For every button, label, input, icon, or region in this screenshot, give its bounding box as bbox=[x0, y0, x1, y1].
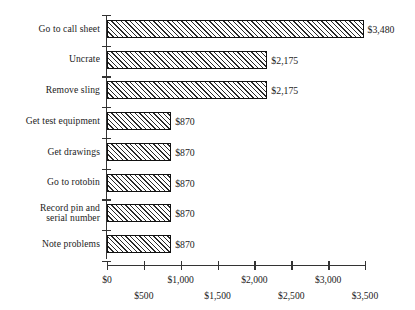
bar-value-label: $3,480 bbox=[364, 24, 395, 35]
category-label-line: serial number bbox=[46, 212, 100, 223]
x-axis-tick bbox=[107, 261, 108, 270]
bar-row: $3,480 bbox=[107, 20, 365, 38]
bar bbox=[107, 20, 364, 38]
category-axis-labels: Go to call sheetUncrateRemove slingGet t… bbox=[0, 0, 104, 258]
category-label: Go to call sheet bbox=[0, 24, 100, 35]
category-label-line: Get drawings bbox=[47, 146, 100, 157]
bar bbox=[107, 51, 267, 69]
bar-value-label: $870 bbox=[171, 208, 195, 219]
bar bbox=[107, 143, 171, 161]
x-axis-tick-label: $500 bbox=[134, 290, 153, 301]
category-label-line: Go to call sheet bbox=[38, 23, 100, 34]
bar-value-label: $870 bbox=[171, 146, 195, 157]
bar-row: $870 bbox=[107, 112, 365, 130]
bar-row: $2,175 bbox=[107, 81, 365, 99]
x-axis-tick-label: $3,000 bbox=[315, 274, 341, 285]
category-label-line: Go to rotobin bbox=[47, 176, 100, 187]
x-axis-tick bbox=[291, 261, 292, 270]
x-axis-tick-label: $3,500 bbox=[352, 290, 378, 301]
bar bbox=[107, 174, 171, 192]
category-label: Record pin andserial number bbox=[0, 203, 100, 224]
category-label: Go to rotobin bbox=[0, 177, 100, 188]
x-axis-tick-label: $2,000 bbox=[241, 274, 267, 285]
bar-row: $2,175 bbox=[107, 51, 365, 69]
x-axis-tick bbox=[365, 261, 366, 270]
bar bbox=[107, 81, 267, 99]
category-label: Remove sling bbox=[0, 85, 100, 96]
bar-value-label: $870 bbox=[171, 116, 195, 127]
category-label-line: Note problems bbox=[42, 238, 100, 249]
category-label: Get test equipment bbox=[0, 116, 100, 127]
bar-row: $870 bbox=[107, 235, 365, 253]
category-label: Uncrate bbox=[0, 54, 100, 65]
x-axis-tick bbox=[254, 261, 255, 270]
bar bbox=[107, 235, 171, 253]
bar-value-label: $2,175 bbox=[267, 85, 298, 96]
category-label: Note problems bbox=[0, 239, 100, 250]
bar-row: $870 bbox=[107, 204, 365, 222]
x-axis-tick-label: $1,000 bbox=[168, 274, 194, 285]
bar-chart: Go to call sheetUncrateRemove slingGet t… bbox=[0, 0, 415, 310]
bar-row: $870 bbox=[107, 174, 365, 192]
bar bbox=[107, 112, 171, 130]
category-label-line: Uncrate bbox=[69, 53, 100, 64]
bar-value-label: $2,175 bbox=[267, 54, 298, 65]
x-axis-tick bbox=[144, 261, 145, 270]
bar-row: $870 bbox=[107, 143, 365, 161]
category-label-line: Remove sling bbox=[46, 84, 100, 95]
x-axis-tick-label: $1,500 bbox=[204, 290, 230, 301]
category-label-line: Get test equipment bbox=[26, 115, 100, 126]
x-axis-tick bbox=[218, 261, 219, 270]
x-axis-tick-label: $0 bbox=[102, 274, 112, 285]
x-axis-tick bbox=[181, 261, 182, 270]
bar-value-label: $870 bbox=[171, 177, 195, 188]
x-axis-tick-label: $2,500 bbox=[278, 290, 304, 301]
bar bbox=[107, 204, 171, 222]
category-label-line: Record pin and bbox=[40, 202, 100, 213]
x-axis-tick bbox=[328, 261, 329, 270]
category-label: Get drawings bbox=[0, 147, 100, 158]
bar-value-label: $870 bbox=[171, 238, 195, 249]
x-axis-line bbox=[107, 265, 365, 266]
plot-area: $3,480$2,175$2,175$870$870$870$870$870 bbox=[107, 15, 407, 258]
